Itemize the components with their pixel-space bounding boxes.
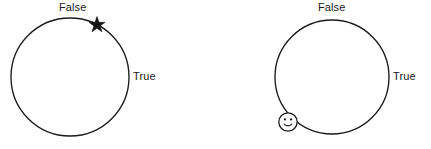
smiley-face-icon <box>279 113 297 131</box>
left-loop-true-label: True <box>133 70 156 83</box>
right-loop-true-label: True <box>393 70 416 83</box>
diagram-svg <box>0 0 431 149</box>
right-loop-group <box>275 20 389 134</box>
star-icon <box>89 17 105 32</box>
diagram-canvas: False True False True <box>0 0 431 149</box>
left-loop-false-label: False <box>59 1 86 14</box>
left-loop-circle <box>11 18 129 136</box>
left-loop-group <box>11 17 129 136</box>
right-loop-false-label: False <box>318 1 345 14</box>
